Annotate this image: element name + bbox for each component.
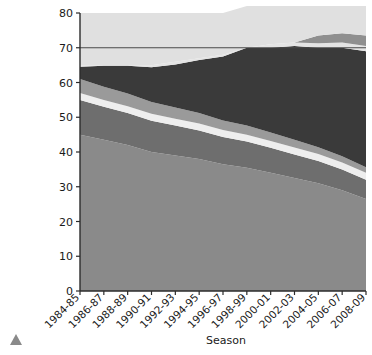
x-axis-ticks: 1984-851986-871988-891990-911992-931994-… bbox=[42, 291, 368, 331]
y-tick-label: 30 bbox=[59, 181, 73, 194]
y-tick-label: 40 bbox=[59, 146, 73, 159]
stacked-area-chart: 01020304050607080 1984-851986-871988-891… bbox=[0, 0, 372, 355]
y-tick-label: 70 bbox=[59, 42, 73, 55]
chart-svg: 01020304050607080 1984-851986-871988-891… bbox=[0, 0, 372, 355]
y-tick-label: 50 bbox=[59, 111, 73, 124]
y-tick-label: 20 bbox=[59, 216, 73, 229]
y-axis-ticks: 01020304050607080 bbox=[59, 7, 80, 298]
stacked-area-bands bbox=[80, 6, 366, 291]
scroll-up-triangle-icon[interactable] bbox=[10, 334, 22, 345]
y-tick-label: 60 bbox=[59, 77, 73, 90]
x-axis-title: Season bbox=[206, 334, 246, 347]
y-tick-label: 10 bbox=[59, 250, 73, 263]
y-tick-label: 80 bbox=[59, 7, 73, 20]
